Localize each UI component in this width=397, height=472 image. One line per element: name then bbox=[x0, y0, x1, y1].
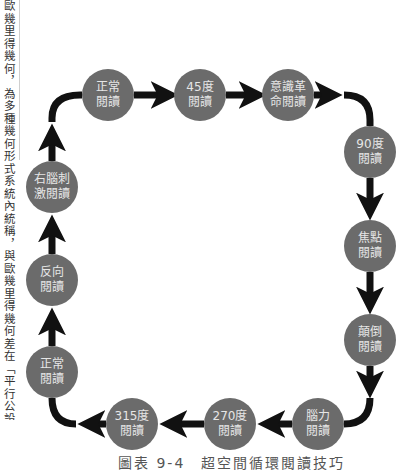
node-45-degree-reading: 45度閱讀 bbox=[174, 69, 226, 121]
node-brainpower-reading: 腦力閱讀 bbox=[292, 398, 344, 450]
node-90-degree-reading: 90度閱讀 bbox=[344, 126, 396, 178]
node-upside-down-reading: 顛倒閱讀 bbox=[344, 314, 396, 366]
node-315-degree-reading: 315度閱讀 bbox=[106, 398, 158, 450]
node-focus-reading: 焦點閱讀 bbox=[344, 220, 396, 272]
node-270-degree-reading: 270度閱讀 bbox=[204, 398, 256, 450]
node-reverse-reading: 反向閱讀 bbox=[26, 254, 78, 306]
node-right-brain-stimulation-reading: 右腦刺激閱讀 bbox=[26, 161, 78, 213]
figure-caption: 圖表 9-4 超空間循環閱讀技巧 bbox=[118, 452, 345, 472]
node-normal-reading-bottom: 正常閱讀 bbox=[26, 346, 78, 398]
node-normal-reading-top: 正常閱讀 bbox=[82, 69, 134, 121]
node-consciousness-revolution-reading: 意識革命閱讀 bbox=[262, 69, 314, 121]
